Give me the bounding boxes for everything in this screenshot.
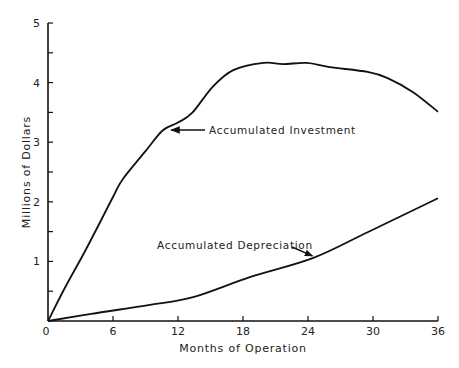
depreciation-line: [48, 198, 438, 321]
depreciation-label: Accumulated Depreciation: [157, 239, 313, 251]
y-tick-label: 2: [33, 196, 40, 209]
y-axis-label: Millions of Dollars: [20, 116, 33, 228]
origin-label: 0: [43, 325, 50, 338]
investment-label: Accumulated Investment: [209, 124, 356, 136]
line-chart: 12345061218243036 Accumulated Investment…: [0, 0, 459, 368]
ticks: 12345061218243036: [33, 17, 445, 338]
y-tick-label: 4: [33, 77, 40, 90]
x-tick-label: 24: [301, 325, 315, 338]
x-axis-label: Months of Operation: [179, 342, 307, 355]
x-tick-label: 18: [236, 325, 250, 338]
y-tick-label: 5: [33, 17, 40, 30]
axes: [48, 23, 438, 321]
x-tick-label: 30: [366, 325, 380, 338]
y-tick-label: 1: [33, 255, 40, 268]
x-tick-label: 12: [171, 325, 185, 338]
y-tick-label: 3: [33, 136, 40, 149]
x-tick-label: 6: [110, 325, 117, 338]
investment-line: [48, 63, 438, 321]
x-tick-label: 36: [431, 325, 445, 338]
annotations: Accumulated InvestmentAccumulated Deprec…: [157, 124, 356, 256]
series: [48, 63, 438, 321]
